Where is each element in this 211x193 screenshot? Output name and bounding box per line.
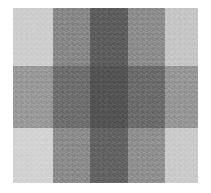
cell-r1c4 — [128, 8, 165, 66]
grayscale-grid — [13, 8, 198, 183]
cell-r1c3 — [90, 8, 128, 66]
cell-r3c3 — [90, 128, 128, 183]
cell-r1c5 — [165, 8, 198, 66]
cell-r2c5 — [165, 66, 198, 128]
cell-r1c1 — [13, 8, 53, 66]
cell-r3c2 — [53, 128, 90, 183]
cell-r3c4 — [128, 128, 165, 183]
cell-r3c1 — [13, 128, 53, 183]
cell-r1c2 — [53, 8, 90, 66]
cell-r3c5 — [165, 128, 198, 183]
image-canvas — [0, 0, 211, 193]
cell-r2c3 — [90, 66, 128, 128]
cell-r2c2 — [53, 66, 90, 128]
cell-r2c1 — [13, 66, 53, 128]
cell-r2c4 — [128, 66, 165, 128]
